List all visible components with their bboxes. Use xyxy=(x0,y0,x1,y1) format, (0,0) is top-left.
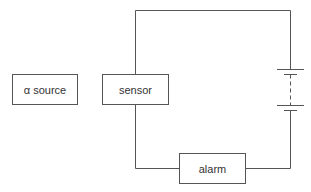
alarm-box: alarm xyxy=(179,153,246,184)
sensor-label: sensor xyxy=(119,84,152,96)
alpha-source-box: α source xyxy=(12,74,78,105)
wire-bottom-right xyxy=(246,110,291,169)
wire-bottom-left xyxy=(136,104,180,169)
wire-top xyxy=(136,11,291,75)
sensor-box: sensor xyxy=(102,74,169,105)
battery-icon xyxy=(277,70,304,111)
alpha-source-label: α source xyxy=(24,84,66,96)
alarm-label: alarm xyxy=(199,163,227,175)
